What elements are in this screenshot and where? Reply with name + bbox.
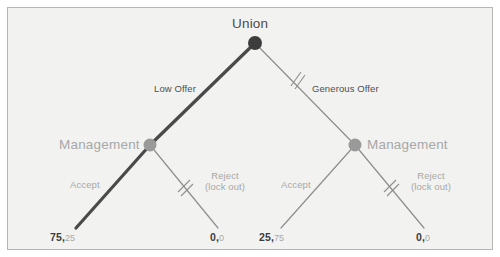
node-management-right[interactable]	[349, 139, 362, 152]
payoff-low-offer-accept: 75,25	[50, 232, 75, 244]
action-label-low-offer: Low Offer	[154, 84, 196, 95]
reject-left-line2: (lock out)	[205, 182, 245, 193]
player-label-management-left: Management	[59, 137, 140, 152]
game-tree-canvas	[0, 0, 500, 257]
reject-right-line2: (lock out)	[411, 182, 451, 193]
payoff-1-union: 75	[50, 231, 62, 243]
payoff-3-union: 25	[259, 231, 271, 243]
payoff-1-management: 25	[65, 233, 75, 243]
node-management-left[interactable]	[144, 139, 157, 152]
payoff-generous-offer-accept: 25,75	[259, 232, 284, 244]
action-label-accept-left: Accept	[70, 180, 100, 191]
action-label-reject-right: Reject (lock out)	[411, 171, 451, 192]
action-label-generous-offer: Generous Offer	[312, 84, 379, 95]
payoff-2-management: 0	[219, 233, 224, 243]
player-label-management-right: Management	[367, 137, 448, 152]
payoff-low-offer-reject: 0,0	[210, 232, 224, 244]
payoff-4-management: 0	[425, 233, 430, 243]
node-union[interactable]	[248, 36, 262, 50]
game-tree-figure: Union Management Management Low Offer Ge…	[0, 0, 500, 257]
action-label-reject-left: Reject (lock out)	[205, 171, 245, 192]
action-label-accept-right: Accept	[281, 180, 311, 191]
payoff-generous-offer-reject: 0,0	[416, 232, 430, 244]
payoff-3-management: 75	[274, 233, 284, 243]
player-label-union: Union	[232, 16, 268, 31]
